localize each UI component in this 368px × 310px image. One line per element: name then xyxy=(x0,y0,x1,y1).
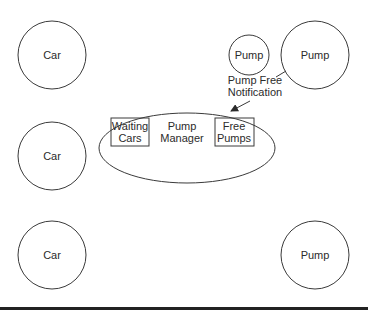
pump-free-notification-edge: Pump Free Notification xyxy=(228,71,286,111)
pump-manager-label-line2: Manager xyxy=(160,132,204,144)
car-label: Car xyxy=(43,49,61,61)
arrow-icon xyxy=(231,101,250,111)
car-node-top: Car xyxy=(18,21,86,89)
free-pumps-label-line1: Free xyxy=(223,120,246,132)
pump-manager-node: Waiting Cars Pump Manager Free Pumps xyxy=(99,113,275,183)
free-pumps-label-line2: Pumps xyxy=(217,132,252,144)
pump-node-top-right: Pump xyxy=(281,21,349,89)
pump-label: Pump xyxy=(301,49,330,61)
waiting-cars-label-line1: Waiting xyxy=(112,120,148,132)
pump-label: Pump xyxy=(235,49,264,61)
diagram-canvas: Car Pump Pump Pump Free Notification Wai… xyxy=(0,0,368,310)
pump-manager-label-line1: Pump xyxy=(168,120,197,132)
pump-label: Pump xyxy=(301,249,330,261)
car-node-bottom: Car xyxy=(18,221,86,289)
waiting-cars-label-line2: Cars xyxy=(118,132,142,144)
pump-node-small: Pump xyxy=(229,35,269,75)
car-label: Car xyxy=(43,249,61,261)
edge-label-line1: Pump Free xyxy=(228,74,282,86)
edge-label-line2: Notification xyxy=(228,86,282,98)
pump-node-bottom-right: Pump xyxy=(281,221,349,289)
car-node-middle: Car xyxy=(18,122,86,190)
car-label: Car xyxy=(43,150,61,162)
